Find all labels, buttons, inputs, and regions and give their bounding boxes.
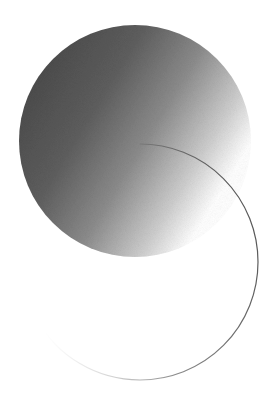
artwork-canvas: [0, 0, 273, 413]
filled-gradient-circle: [19, 25, 251, 257]
abstract-circles-graphic: [0, 0, 273, 413]
